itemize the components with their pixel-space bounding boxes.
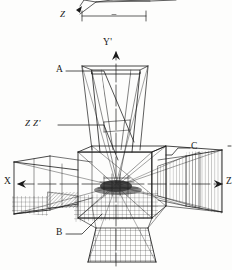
technical-drawing-figure: Y' X Z Z A Z Z' C B — [0, 0, 232, 270]
drawing-canvas — [0, 0, 232, 270]
callout-label-zz: Z Z' — [25, 119, 41, 128]
callout-label-b: B — [56, 228, 63, 238]
axis-label-z-top: Z — [60, 10, 65, 19]
axis-label-z-right: Z — [226, 177, 232, 187]
leader-zz — [58, 125, 118, 160]
callout-label-a: A — [56, 65, 63, 75]
callout-label-c: C — [191, 142, 198, 152]
axis-label-y: Y' — [103, 38, 112, 48]
top-dimension-line — [82, 11, 146, 21]
axis-label-x: X — [4, 177, 11, 187]
top-partial-figure — [76, 0, 176, 14]
